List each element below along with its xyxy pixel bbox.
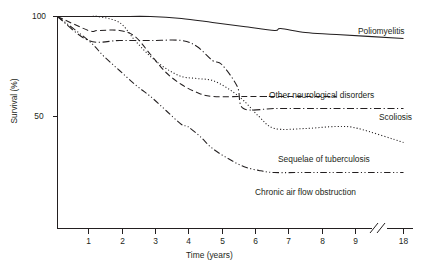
x-tick-label-4: 4 [178,237,199,245]
chart-canvas [0,0,438,267]
x-tick-label-18: 18 [393,237,414,245]
x-tick-label-7: 7 [278,237,299,245]
axis-break-marks [370,223,385,233]
y-axis-title: Survival (%) [9,69,19,133]
y-tick-label-100: 100 [28,12,50,20]
series-line-other-neurological-disorders [58,17,337,97]
series-label-poliomyelitis: Poliomyelitis [358,27,405,35]
series-line-poliomyelitis [58,16,404,38]
x-tick-label-1: 1 [78,237,99,245]
x-tick-label-6: 6 [245,237,266,245]
x-tick-label-9: 9 [345,237,366,245]
series-label-other-neurological-disorders: Other neurological disorders [269,91,374,99]
series-label-chronic-air-flow-obstruction: Chronic air flow obstruction [255,188,356,196]
x-axis-title: Time (years) [186,250,233,260]
x-tick-label-8: 8 [312,237,333,245]
y-tick-label-50: 50 [28,112,50,120]
series-label-sequelae-of-tuberculosis: Sequelae of tuberculosis [278,155,370,163]
x-tick-label-5: 5 [212,237,233,245]
series-label-scoliosis: Scoliosis [379,113,412,121]
x-tick-label-3: 3 [145,237,166,245]
survival-curve-chart: Survival (%) 100 50 1 2 3 4 5 6 7 8 9 18… [0,0,438,267]
x-tick-label-2: 2 [112,237,133,245]
